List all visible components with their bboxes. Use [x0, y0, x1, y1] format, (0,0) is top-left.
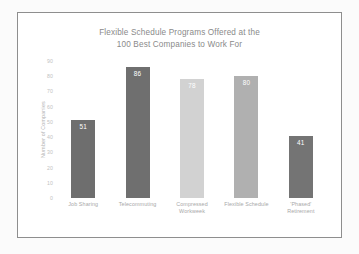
chart-title-line-2: 100 Best Companies to Work For — [18, 39, 341, 51]
bar-slot: 86 — [110, 61, 164, 198]
bar-value-label: 86 — [126, 70, 150, 77]
y-tick-label: 40 — [47, 134, 53, 140]
y-tick-label: 20 — [47, 165, 53, 171]
bar-slot: 78 — [165, 61, 219, 198]
x-category-label: CompressedWorkweek — [165, 201, 219, 216]
x-category-label-line-1: 'Phased' — [290, 201, 311, 207]
y-tick-label: 10 — [47, 180, 53, 186]
x-axis-categories: Job SharingTelecommutingCompressedWorkwe… — [56, 201, 328, 216]
x-category-label-line-1: Telecommuting — [119, 201, 157, 207]
x-category-label-line-2: Retirement — [274, 208, 328, 215]
x-category-label: 'Phased'Retirement — [274, 201, 328, 216]
bar-slot: 41 — [274, 61, 328, 198]
x-category-label: Flexible Schedule — [219, 201, 273, 216]
y-axis-title: Number of Companies — [40, 61, 50, 198]
plot-area: 9080706050403020100 5186788041 — [56, 61, 328, 198]
bar[interactable]: 78 — [180, 79, 204, 198]
x-category-label: Job Sharing — [56, 201, 110, 216]
x-category-label: Telecommuting — [110, 201, 164, 216]
x-category-label-line-1: Job Sharing — [68, 201, 98, 207]
bar-value-label: 78 — [180, 82, 204, 89]
chart-area: Flexible Schedule Programs Offered at th… — [18, 13, 341, 237]
x-category-label-line-2: Workweek — [165, 208, 219, 215]
x-category-label-line-1: Compressed — [176, 201, 208, 207]
bar[interactable]: 41 — [289, 136, 313, 198]
bar[interactable]: 80 — [234, 76, 258, 198]
bar-slot: 51 — [56, 61, 110, 198]
y-tick-label: 30 — [47, 149, 53, 155]
y-tick-label: 60 — [47, 104, 53, 110]
y-tick-label: 70 — [47, 88, 53, 94]
chart-title: Flexible Schedule Programs Offered at th… — [18, 27, 341, 50]
y-tick-label: 80 — [47, 73, 53, 79]
bar-value-label: 41 — [289, 139, 313, 146]
bar-series: 5186788041 — [56, 61, 328, 198]
bar[interactable]: 51 — [71, 120, 95, 198]
bar-value-label: 80 — [234, 79, 258, 86]
x-category-label-line-1: Flexible Schedule — [224, 201, 268, 207]
bar-value-label: 51 — [71, 123, 95, 130]
chart-title-line-1: Flexible Schedule Programs Offered at th… — [99, 28, 260, 37]
bar-slot: 80 — [219, 61, 273, 198]
y-tick-label: 90 — [47, 58, 53, 64]
bar[interactable]: 86 — [126, 67, 150, 198]
y-tick-label: 0 — [50, 195, 53, 201]
screenshot-root: Flexible Schedule Programs Offered at th… — [0, 0, 359, 254]
y-tick-label: 50 — [47, 119, 53, 125]
chart-frame: Flexible Schedule Programs Offered at th… — [17, 12, 342, 238]
